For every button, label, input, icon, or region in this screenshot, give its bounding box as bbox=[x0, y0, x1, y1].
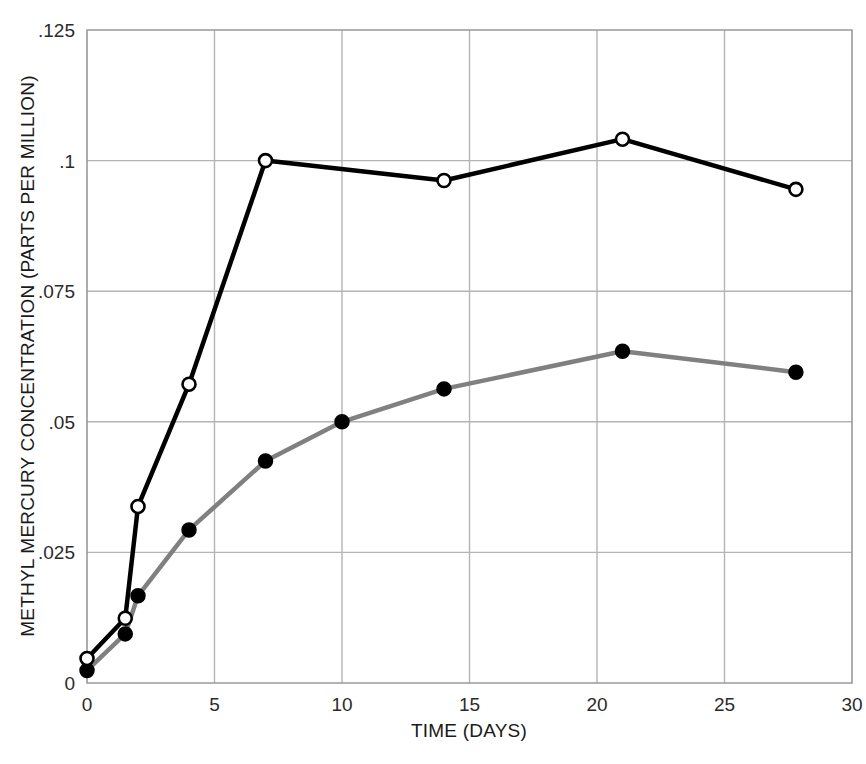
data-point-marker bbox=[81, 652, 94, 665]
x-tick-label: 0 bbox=[82, 694, 93, 715]
x-axis-title: TIME (DAYS) bbox=[411, 720, 527, 741]
data-point-marker bbox=[132, 500, 145, 513]
y-axis-title: METHYL MERCURY CONCENTRATION (PARTS PER … bbox=[17, 75, 38, 636]
x-tick-label: 30 bbox=[841, 694, 862, 715]
x-tick-label: 15 bbox=[459, 694, 480, 715]
x-tick-label: 10 bbox=[331, 694, 352, 715]
y-tick-label: 0 bbox=[64, 673, 75, 694]
data-point-marker bbox=[118, 627, 132, 641]
data-point-marker bbox=[437, 382, 451, 396]
x-tick-label: 5 bbox=[209, 694, 220, 715]
data-point-marker bbox=[182, 523, 196, 537]
chart-background bbox=[0, 0, 866, 764]
methyl-mercury-line-chart: 051015202530 0.025.05.075.1.125 TIME (DA… bbox=[0, 0, 866, 764]
data-point-marker bbox=[616, 344, 630, 358]
x-tick-label: 25 bbox=[714, 694, 735, 715]
data-point-marker bbox=[183, 378, 196, 391]
y-tick-label: .125 bbox=[38, 20, 75, 41]
data-point-marker bbox=[119, 612, 132, 625]
data-point-marker bbox=[789, 183, 802, 196]
data-point-marker bbox=[259, 154, 272, 167]
y-tick-label: .075 bbox=[38, 281, 75, 302]
chart-figure: 051015202530 0.025.05.075.1.125 TIME (DA… bbox=[0, 0, 866, 764]
data-point-marker bbox=[789, 365, 803, 379]
y-tick-label: .1 bbox=[59, 151, 75, 172]
y-tick-label: .05 bbox=[49, 412, 75, 433]
data-point-marker bbox=[131, 589, 145, 603]
data-point-marker bbox=[438, 174, 451, 187]
y-tick-label: .025 bbox=[38, 542, 75, 563]
data-point-marker bbox=[259, 454, 273, 468]
data-point-marker bbox=[616, 133, 629, 146]
x-tick-label: 20 bbox=[586, 694, 607, 715]
data-point-marker bbox=[335, 415, 349, 429]
